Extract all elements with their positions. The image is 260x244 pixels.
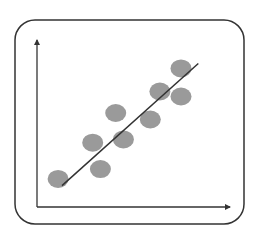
data-point (105, 104, 126, 122)
data-point (171, 59, 192, 77)
data-point (90, 160, 111, 178)
data-point (48, 170, 69, 188)
data-point (113, 130, 134, 148)
scatter-plot-icon (0, 0, 260, 244)
data-point (82, 134, 103, 152)
chart-frame (15, 20, 244, 224)
data-point (171, 88, 192, 106)
